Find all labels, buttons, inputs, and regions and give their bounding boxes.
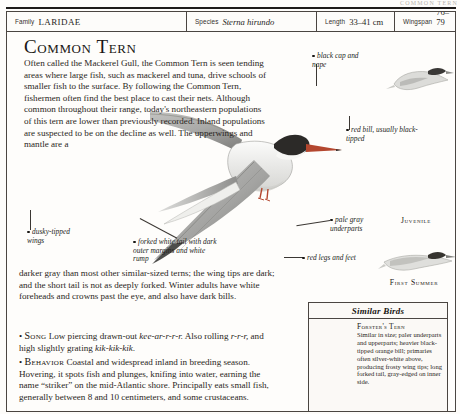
annotation-dot-forked-tail <box>133 241 136 244</box>
spec-cell-species: Species Sterna hirundo <box>187 12 317 31</box>
spec-value-family: LARIDAE <box>38 17 80 27</box>
annotation-text-pale-gray: pale gray underparts <box>330 215 363 233</box>
annotation-text-dusky-wings: dusky-tipped wings <box>27 227 70 245</box>
juvenile-tern-illustration <box>384 58 454 98</box>
annotation-forked-tail: forked white tail with dark outer margin… <box>133 238 221 264</box>
annotation-dot-black-cap <box>312 55 315 58</box>
spec-cell-wingspan: Wingspan 76–79 cm <box>395 12 455 31</box>
similar-birds-entry-text: Similar in size; paler underparts and up… <box>357 331 442 385</box>
field-guide-page: COMMON TERN Family LARIDAE Species Stern… <box>0 0 460 414</box>
annotation-text-forked-tail: forked white tail with dark outer margin… <box>133 237 217 263</box>
annotation-dot-red-bill <box>346 129 349 132</box>
top-rule <box>6 7 456 9</box>
annotation-red-bill: red bill, usually black-tipped <box>346 126 420 143</box>
annotation-black-cap: black cap and nape <box>312 52 374 69</box>
leader-line-dusky-wings <box>30 210 31 230</box>
behavior-bullet: • <box>19 357 22 367</box>
species-spec-table: Family LARIDAE Species Sterna hirundo Le… <box>6 11 456 32</box>
stage-label-first-summer: First Summer <box>386 278 442 287</box>
annotation-dot-dusky-wings <box>27 231 30 234</box>
similar-birds-header: Similar Birds <box>309 303 447 319</box>
spec-value-species: Sterna hirundo <box>222 17 274 27</box>
annotation-text-black-cap: black cap and nape <box>312 51 359 69</box>
annotation-red-legs: red legs and feet <box>302 254 392 263</box>
behavior-paragraph: • Behavior Coastal and widespread inland… <box>19 356 281 403</box>
running-head: COMMON TERN <box>300 0 458 7</box>
similar-birds-entry: Forster's TernSimilar in size; paler und… <box>357 323 443 386</box>
similar-birds-entry-name: Forster's Tern <box>357 323 443 331</box>
first-summer-tern-illustration <box>378 246 456 282</box>
song-text-b: Also rolling <box>183 331 231 341</box>
song-bullet: • <box>19 331 22 341</box>
similar-birds-body: Forster's TernSimilar in size; paler und… <box>309 319 447 414</box>
spec-label-wingspan: Wingspan <box>403 18 432 25</box>
spec-label-species: Species <box>195 18 218 25</box>
behavior-label: Behavior <box>24 356 64 367</box>
song-call-b: r-r-r, <box>231 331 249 341</box>
intro-paragraph: Often called the Mackerel Gull, the Comm… <box>24 58 268 151</box>
annotation-pale-gray: pale gray underparts <box>330 216 384 233</box>
spec-value-wingspan: 76–79 cm <box>436 12 455 31</box>
continuation-paragraph: darker gray than most other similar-size… <box>19 268 287 303</box>
similar-birds-box: Similar Birds Forster's TernSimilar in s… <box>308 302 448 412</box>
song-text-a: Low piercing drawn-out <box>49 331 140 341</box>
page-title: Common Tern <box>24 36 137 58</box>
spec-label-family: Family <box>15 18 34 25</box>
song-call-a: kee-ar-r-r-r. <box>139 331 183 341</box>
spec-cell-family: Family LARIDAE <box>7 12 187 31</box>
stage-label-juvenile: Juvenile <box>384 216 448 225</box>
spec-value-length: 33–41 cm <box>349 17 383 27</box>
spec-cell-length: Length 33–41 cm <box>317 12 395 31</box>
annotation-dusky-wings: dusky-tipped wings <box>27 228 87 245</box>
annotation-text-red-legs: red legs and feet <box>307 253 356 262</box>
spec-label-length: Length <box>325 18 345 25</box>
song-paragraph: • Song Low piercing drawn-out kee-ar-r-r… <box>19 330 277 354</box>
song-label: Song <box>24 330 46 341</box>
song-call-c: kik-kik-kik. <box>95 343 135 353</box>
annotation-text-red-bill: red bill, usually black-tipped <box>346 125 418 143</box>
annotation-dot-pale-gray <box>330 219 333 222</box>
similar-birds-heading: Similar Birds <box>352 306 404 316</box>
leader-line-red-legs <box>284 257 304 258</box>
annotation-dot-red-legs <box>302 257 305 260</box>
